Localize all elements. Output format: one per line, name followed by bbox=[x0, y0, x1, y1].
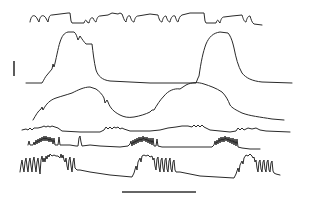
trace-6 bbox=[20, 154, 280, 178]
trace-1 bbox=[30, 13, 262, 25]
trace-5 bbox=[28, 136, 260, 149]
trace-3 bbox=[33, 83, 284, 120]
traces-plot bbox=[0, 0, 332, 201]
trace-4 bbox=[22, 125, 290, 132]
trace-2 bbox=[26, 32, 292, 83]
figure bbox=[0, 0, 332, 201]
